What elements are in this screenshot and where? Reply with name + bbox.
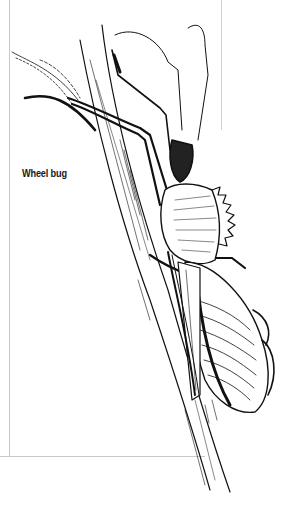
legs [68,98,245,275]
figure-caption: Wheel bug [22,168,67,179]
thorax-wheel-crest [161,184,235,264]
grass-leaf [12,52,95,130]
bug-head [170,140,193,182]
front-leg [112,50,170,150]
wheel-bug-illustration [0,0,292,510]
